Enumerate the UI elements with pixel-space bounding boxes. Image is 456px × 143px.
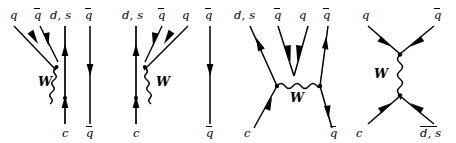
label-top-4: q xyxy=(205,10,213,22)
label-bottom-2: q xyxy=(86,128,94,140)
label-bottom-2: q xyxy=(330,128,338,140)
label-top-1: d, s xyxy=(234,10,255,22)
label-top-1: d, s xyxy=(122,10,143,22)
vertex-dot-upper xyxy=(55,65,59,69)
label-top-2: q xyxy=(34,10,42,22)
label-bottom-2: q xyxy=(206,128,214,140)
label-w-boson: W xyxy=(156,76,170,89)
fermion-line-c-to-ds xyxy=(133,26,140,124)
antiquark-overbar-group: q xyxy=(158,10,166,22)
label-bottom-1: c xyxy=(133,128,140,140)
w-boson-propagator xyxy=(275,84,322,89)
vertex-dot-lower xyxy=(134,96,138,100)
arrowhead-toward-upper-right xyxy=(152,32,159,46)
antiquark-overbar-group: q xyxy=(85,10,93,22)
overbar xyxy=(274,8,280,9)
fermion-line-outgoing-antiquark xyxy=(400,26,434,54)
arrowhead-toward-lower-left xyxy=(410,36,424,47)
label-bottom-1: c xyxy=(356,128,363,140)
antiquark-overbar-group: q xyxy=(330,128,338,140)
antiquark-overbar-group: q xyxy=(206,128,214,140)
overbar xyxy=(34,8,40,9)
overbar xyxy=(86,126,92,127)
vertex-dot-upper xyxy=(143,65,147,69)
antiquark-overbar-group: q xyxy=(86,128,94,140)
overbar xyxy=(420,126,436,127)
fermion-line-outgoing-quark xyxy=(368,26,400,54)
fermion-line-spectator-antiquark xyxy=(207,26,214,124)
antiquark-overbar-group: q xyxy=(205,10,213,22)
fermion-line-incoming-c xyxy=(368,96,400,124)
label-top-2: q xyxy=(274,10,282,22)
diagram-external-w-emission-left: q q d, s q W c q xyxy=(0,0,115,143)
label-w-boson: W xyxy=(38,76,52,89)
arrowhead-up-upper xyxy=(256,38,265,52)
arrowhead-toward-upper-left-2 xyxy=(43,32,50,46)
label-top-1: q xyxy=(362,10,370,22)
antiquark-overbar-group: q xyxy=(434,10,442,22)
fermion-line-c-to-ds xyxy=(250,26,277,128)
label-bottom-1: c xyxy=(62,128,69,140)
label-top-3: d, s xyxy=(50,10,71,22)
arrowhead-down xyxy=(207,64,214,76)
fermion-line-outgoing-quark xyxy=(14,26,56,70)
label-bottom-2: d, s xyxy=(420,128,441,140)
label-bottom-1: c xyxy=(244,128,251,140)
label-top-4: q xyxy=(85,10,93,22)
vertex-dot-lower xyxy=(398,93,402,97)
arrowhead-toward-upper-left xyxy=(410,103,424,114)
fermion-line-c-to-ds xyxy=(62,26,69,124)
label-top-2: q xyxy=(158,10,166,22)
diagram-w-annihilation: q q W c d, s xyxy=(352,0,456,143)
antiquark-overbar-group: q xyxy=(34,10,42,22)
label-w-boson: W xyxy=(374,68,388,81)
antiquark-overbar-group: q xyxy=(323,10,331,22)
fermion-line-spectator-antiquark xyxy=(87,26,94,124)
antiquark-overbar-group: d, s xyxy=(420,128,441,140)
overbar xyxy=(206,126,212,127)
arrowhead-toward-upper-right xyxy=(378,103,392,114)
antiquark-overbar-group: q xyxy=(274,10,282,22)
fermion-line-spectator-antiquark xyxy=(320,26,332,128)
overbar xyxy=(205,8,211,9)
vertex-dot-upper xyxy=(398,52,402,56)
label-w-boson: W xyxy=(290,92,304,105)
arrowhead-up xyxy=(322,36,328,50)
overbar xyxy=(85,8,91,9)
diagram-external-w-emission-right: d, s q q q W c q xyxy=(118,0,230,143)
label-top-4: q xyxy=(323,10,331,22)
fermion-pair-v-shape xyxy=(278,26,308,76)
diagram-w-exchange: d, s q q q W c q xyxy=(232,0,350,143)
arrowhead-up-lower xyxy=(264,97,272,111)
fermion-line-outgoing-antiquark xyxy=(145,26,162,62)
label-top-2: q xyxy=(434,10,442,22)
arrowhead-toward-lower-right xyxy=(378,36,392,47)
feynman-diagram-figure: q q d, s q W c q xyxy=(0,0,456,143)
label-top-3: q xyxy=(299,10,307,22)
overbar xyxy=(323,8,329,9)
vertex-dot-left xyxy=(275,84,279,88)
label-top-1: q xyxy=(10,10,18,22)
fermion-line-outgoing-quark xyxy=(144,26,188,70)
overbar xyxy=(434,8,440,9)
vertex-dot-lower xyxy=(63,96,67,100)
fermion-line-incoming-antiquark xyxy=(400,96,434,124)
arrowhead-down-left-branch xyxy=(284,45,291,62)
arrowhead-down xyxy=(87,64,94,76)
arrowhead-up-upper xyxy=(62,44,69,56)
label-top-3: q xyxy=(182,10,190,22)
arrowhead-up-upper xyxy=(133,44,140,56)
overbar xyxy=(158,8,164,9)
vertex-dot-right xyxy=(318,84,322,88)
w-boson-propagator xyxy=(398,52,403,99)
overbar xyxy=(330,126,336,127)
